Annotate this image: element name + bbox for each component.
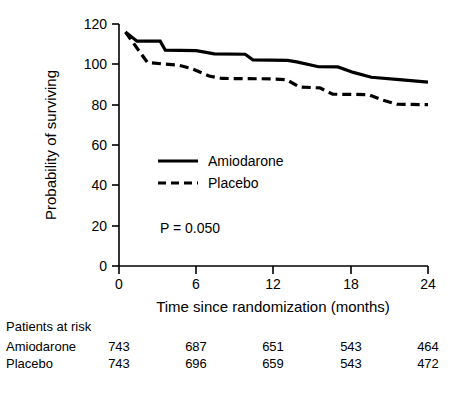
risk-cell: 472 — [417, 356, 439, 371]
risk-cell: 687 — [185, 339, 207, 354]
p-value-annotation: P = 0.050 — [160, 220, 220, 236]
y-tick-label: 0 — [99, 258, 107, 274]
figure-background — [0, 0, 461, 397]
risk-row-label-amiodarone: Amiodarone — [6, 339, 76, 354]
risk-cell: 543 — [340, 339, 362, 354]
risk-cell: 743 — [108, 356, 130, 371]
y-tick-label: 60 — [91, 137, 107, 153]
y-axis-title: Probability of surviving — [42, 70, 59, 220]
x-tick-label: 6 — [192, 276, 200, 292]
x-tick-label: 24 — [420, 276, 436, 292]
x-axis-title: Time since randomization (months) — [156, 298, 390, 315]
survival-chart-figure: 120 100 80 60 40 20 0 0 6 12 18 24 Time … — [0, 0, 461, 397]
risk-row-label-placebo: Placebo — [6, 356, 53, 371]
risk-cell: 696 — [185, 356, 207, 371]
y-tick-label: 40 — [91, 177, 107, 193]
legend-label-amiodarone: Amiodarone — [208, 153, 284, 169]
y-tick-label: 80 — [91, 97, 107, 113]
y-tick-label: 120 — [84, 16, 108, 32]
x-tick-label: 12 — [265, 276, 281, 292]
risk-cell: 743 — [108, 339, 130, 354]
x-tick-label: 18 — [343, 276, 359, 292]
y-tick-label: 20 — [91, 218, 107, 234]
risk-table-title: Patients at risk — [6, 319, 92, 334]
chart-svg: 120 100 80 60 40 20 0 0 6 12 18 24 Time … — [0, 0, 461, 397]
y-tick-label: 100 — [84, 56, 108, 72]
risk-cell: 659 — [262, 356, 284, 371]
risk-cell: 651 — [262, 339, 284, 354]
risk-cell: 464 — [417, 339, 439, 354]
x-tick-label: 0 — [115, 276, 123, 292]
legend-label-placebo: Placebo — [208, 175, 259, 191]
risk-cell: 543 — [340, 356, 362, 371]
